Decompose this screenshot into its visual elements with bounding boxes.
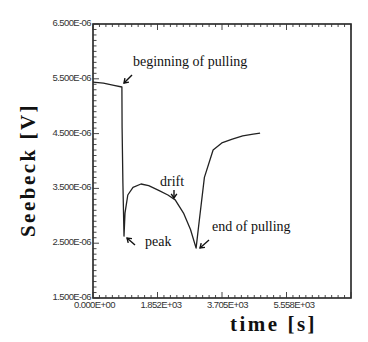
annotation-beginning-of-pulling: beginning of pulling bbox=[133, 54, 247, 70]
annotation-end-of-pulling: end of pulling bbox=[212, 219, 291, 235]
y-tick-label: 6.500E-06 bbox=[31, 17, 91, 28]
x-tick-label: 1.852E+03 bbox=[141, 299, 182, 310]
y-tick-label: 5.500E-06 bbox=[31, 72, 91, 83]
x-tick-label: 0.000E+00 bbox=[74, 299, 115, 310]
x-tick-label: 3.705E+03 bbox=[207, 299, 248, 310]
x-tick-label: 5.558E+03 bbox=[274, 299, 315, 310]
x-axis-label: time [s] bbox=[230, 312, 317, 337]
y-tick-label: 2.500E-06 bbox=[31, 236, 91, 247]
annotation-drift: drift bbox=[160, 174, 184, 190]
y-axis-label: Seebeck [V] bbox=[16, 103, 41, 237]
annotation-peak: peak bbox=[145, 234, 171, 250]
